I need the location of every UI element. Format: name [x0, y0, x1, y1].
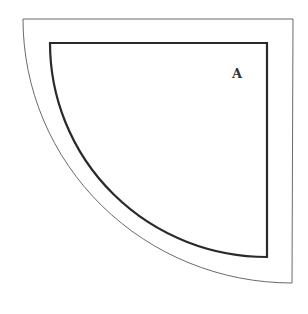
region-label-a: A	[231, 66, 243, 81]
outer-quarter-circle-outline	[23, 19, 293, 283]
quarter-circle-diagram: A	[0, 0, 308, 314]
